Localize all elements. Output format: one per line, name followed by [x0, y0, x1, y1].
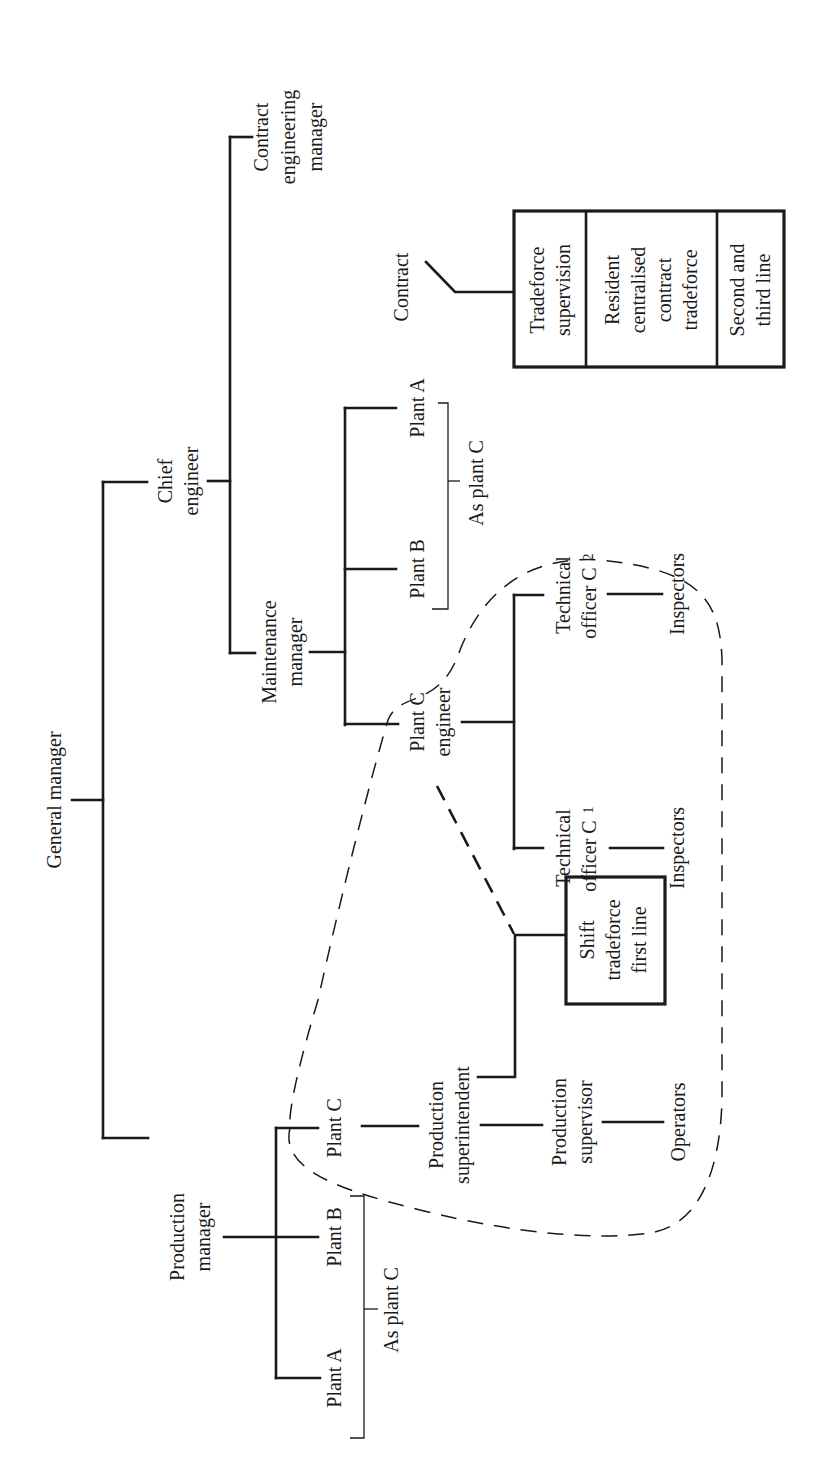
contract-engineering-manager-label: Contract engineering manager — [250, 90, 327, 184]
svg-text:supervisor: supervisor — [574, 1080, 597, 1164]
production-manager-label: Production manager — [166, 1193, 215, 1281]
svg-text:superintendent: superintendent — [451, 1066, 474, 1184]
svg-text:tradeforce: tradeforce — [679, 249, 701, 330]
maint-as-plant-c-bracket — [432, 403, 448, 609]
plant-c-engineer-label: Plant C engineer — [406, 687, 455, 756]
svg-text:manager: manager — [284, 617, 307, 686]
svg-text:manager: manager — [304, 102, 327, 171]
svg-text:first line: first line — [628, 906, 650, 973]
superintendent-to-shift-connector — [478, 935, 565, 1077]
operators-label: Operators — [667, 1082, 690, 1161]
contract-label: Contract — [390, 252, 412, 321]
contract-connector — [426, 262, 513, 292]
svg-text:Resident: Resident — [601, 255, 623, 325]
organization-chart: General manager Chief engineer Contract … — [0, 0, 828, 1478]
svg-text:Contract: Contract — [250, 102, 272, 171]
technical-officer-c2-label: Technical officer C 2 — [552, 554, 600, 639]
svg-text:Second and: Second and — [726, 244, 748, 337]
maint-plant-b-label: Plant B — [406, 539, 428, 598]
svg-text:Chief: Chief — [154, 458, 176, 503]
svg-text:engineer: engineer — [180, 446, 203, 515]
prod-as-plant-c-label: As plant C — [380, 1267, 403, 1353]
maint-plant-a-label: Plant A — [406, 378, 428, 438]
inspectors-c2-label: Inspectors — [666, 553, 689, 635]
production-superintendent-label: Production superintendent — [425, 1066, 474, 1184]
svg-text:Maintenance: Maintenance — [258, 600, 280, 703]
prod-plant-b-label: Plant B — [323, 1207, 345, 1266]
subscript-1: 1 — [581, 807, 596, 814]
svg-text:Technical: Technical — [552, 809, 574, 887]
prod-plant-a-label: Plant A — [323, 1348, 345, 1408]
svg-text:officer C: officer C — [578, 567, 600, 638]
svg-text:Production: Production — [425, 1081, 447, 1169]
inspectors-c1-label: Inspectors — [666, 807, 689, 889]
svg-text:engineering: engineering — [277, 90, 300, 184]
svg-text:centralised: centralised — [627, 247, 649, 334]
subscript-2: 2 — [581, 554, 596, 561]
svg-text:supervision: supervision — [552, 244, 575, 336]
svg-text:engineer: engineer — [432, 687, 455, 756]
chief-engineer-label: Chief engineer — [154, 446, 203, 515]
svg-text:Technical: Technical — [552, 556, 574, 634]
prod-as-plant-c-bracket — [350, 1196, 364, 1438]
svg-text:contract: contract — [653, 257, 675, 322]
svg-text:manager: manager — [192, 1202, 215, 1271]
maintenance-manager-label: Maintenance manager — [258, 600, 307, 703]
prod-plant-c-label: Plant C — [323, 1098, 345, 1157]
svg-text:Tradeforce: Tradeforce — [526, 246, 548, 333]
svg-text:Plant C: Plant C — [406, 692, 428, 751]
svg-text:Production: Production — [166, 1193, 188, 1281]
svg-text:Production: Production — [548, 1078, 570, 1166]
production-supervisor-label: Production supervisor — [548, 1078, 597, 1166]
svg-text:tradeforce: tradeforce — [602, 899, 624, 980]
svg-text:third line: third line — [752, 253, 774, 326]
svg-text:officer C: officer C — [578, 820, 600, 891]
pce-to-shift-dashed-link — [437, 786, 514, 934]
maint-as-plant-c-label: As plant C — [465, 440, 488, 526]
general-manager-label: General manager — [43, 731, 66, 868]
svg-text:Shift: Shift — [576, 920, 598, 959]
